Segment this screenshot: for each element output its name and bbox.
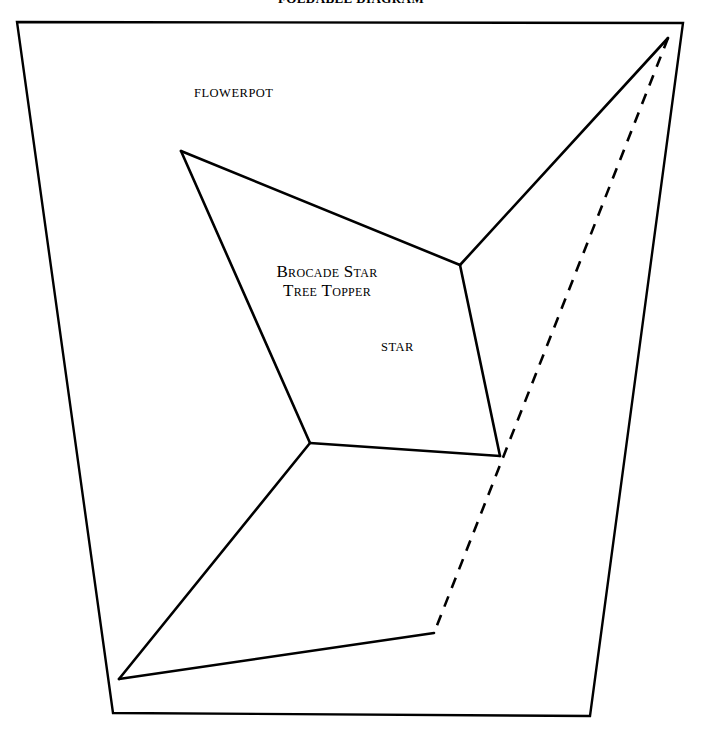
label-flowerpot: FLOWERPOT <box>194 86 274 101</box>
project-title-line-1: Brocade Star <box>239 262 415 281</box>
dashed-fold-apex-to-foot <box>434 38 668 633</box>
label-star: STAR <box>381 340 414 355</box>
edge-lower-right-hub-to-center-hub <box>310 443 500 456</box>
edge-center-hub-to-bottom-left-point <box>119 443 310 679</box>
project-title-line-2: Tree Topper <box>239 281 415 300</box>
label-project-title: Brocade Star Tree Topper <box>239 262 415 300</box>
edge-bottom-left-point-to-dash-foot <box>119 633 434 679</box>
edge-upper-hub-to-lower-right-hub <box>460 265 500 456</box>
foldable-diagram-figure <box>0 0 702 730</box>
star-solid-lines <box>119 38 668 679</box>
outer-border-shape <box>17 22 683 716</box>
star-dashed-fold-line <box>434 38 668 633</box>
edge-upper-hub-to-right-apex <box>460 38 668 265</box>
diagram-root: FOLDABLE DIAGRAM FLOWERPOT STAR Brocade … <box>0 0 702 730</box>
